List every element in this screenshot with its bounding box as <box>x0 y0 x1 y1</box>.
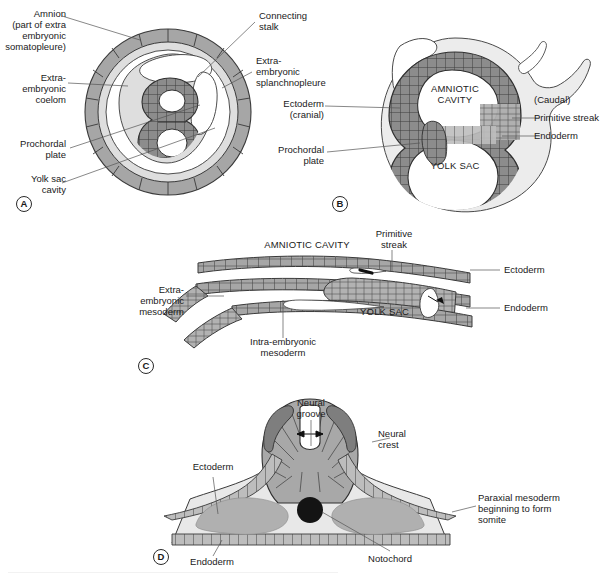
label-connecting-stalk: Connecting stalk <box>259 10 319 32</box>
label-neural-groove: Neural groove <box>283 397 339 419</box>
label-primitive-streak-c: Primitive streak <box>366 228 422 250</box>
label-ectoderm-d: Ectoderm <box>183 461 243 472</box>
panel-tag-a: A <box>16 196 32 212</box>
label-extra-embryonic-coelom: Extra- embryonic coelom <box>0 72 66 105</box>
label-caudal: (Caudal) <box>534 94 606 105</box>
label-intra-embryonic-mesoderm: Intra-embryonic mesoderm <box>233 336 333 358</box>
label-extra-embryonic-mesoderm: Extra- embryonic mesoderm <box>120 284 184 317</box>
panel-tag-b: B <box>332 196 348 212</box>
label-prochordal-plate-b: Prochordal plate <box>258 144 324 166</box>
panel-d-art <box>164 399 456 545</box>
label-ectoderm-c: Ectoderm <box>504 264 574 275</box>
label-extra-embryonic-splanchnopleure: Extra- embryonic splanchnopleure <box>256 55 322 88</box>
label-endoderm-d: Endoderm <box>182 556 242 567</box>
panel-tag-c: C <box>138 358 154 374</box>
label-amniotic-cavity-b: AMNIOTIC CAVITY <box>412 83 498 105</box>
label-yolk-sac-b: YOLK SAC <box>410 160 500 171</box>
panel-a-art <box>85 29 251 195</box>
label-amniotic-cavity-c: AMNIOTIC CAVITY <box>252 239 362 250</box>
label-endoderm-b: Endoderm <box>534 130 606 141</box>
label-ectoderm-cranial: Ectoderm (cranial) <box>258 98 324 120</box>
panel-c-art <box>164 256 472 348</box>
label-paraxial-mesoderm: Paraxial mesoderm beginning to form somi… <box>478 492 602 525</box>
label-yolk-sac-cavity: Yolk sac cavity <box>0 173 66 195</box>
label-yolk-sac-c: YOLK SAC <box>360 306 430 317</box>
caption-rule <box>8 572 338 573</box>
label-primitive-streak-b: Primitive streak <box>534 112 606 123</box>
label-neural-crest: Neural crest <box>378 428 428 450</box>
label-endoderm-c: Endoderm <box>504 302 574 313</box>
label-notochord: Notochord <box>350 553 430 564</box>
label-prochordal-plate: Prochordal plate <box>0 138 66 160</box>
label-amnion: Amnion (part of extra embryonic somatopl… <box>0 8 66 52</box>
panel-tag-d: D <box>153 549 169 565</box>
